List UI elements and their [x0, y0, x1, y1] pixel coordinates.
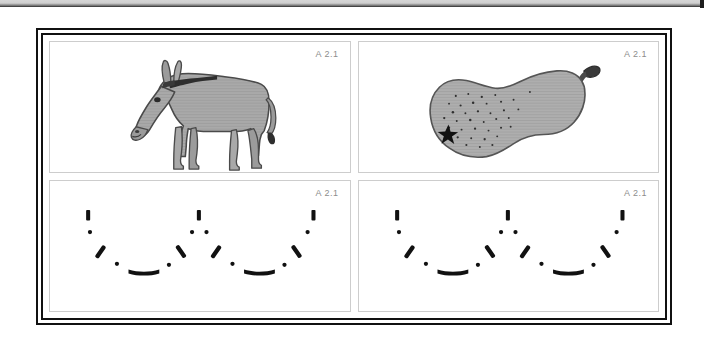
top-edge-strip-cap — [700, 0, 704, 8]
panel-pear[interactable]: A 2.1 — [358, 41, 660, 173]
panel-label: A 2.1 — [624, 49, 647, 59]
panel-label: A 2.1 — [315, 188, 338, 198]
outer-frame: A 2.1 — [36, 28, 672, 325]
panel-donkey[interactable]: A 2.1 — [49, 41, 351, 173]
top-edge-strip — [0, 0, 704, 7]
donkey-illustration — [50, 42, 350, 172]
inner-frame: A 2.1 — [41, 33, 667, 320]
dashed-double-curve — [50, 181, 350, 311]
pear-illustration — [359, 42, 659, 172]
panel-curve-left[interactable]: A 2.1 — [49, 180, 351, 312]
panel-label: A 2.1 — [315, 49, 338, 59]
panel-grid: A 2.1 — [49, 41, 659, 312]
panel-label: A 2.1 — [624, 188, 647, 198]
dashed-double-curve — [359, 181, 659, 311]
panel-curve-right[interactable]: A 2.1 — [358, 180, 660, 312]
